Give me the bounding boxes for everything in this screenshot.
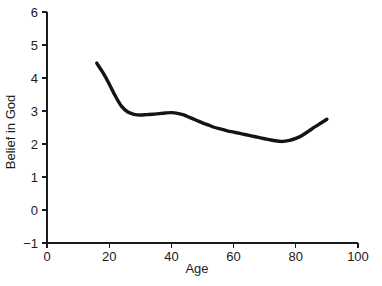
y-axis-tick-label: −1 — [23, 236, 38, 251]
y-axis-title: Belief in God — [3, 95, 18, 169]
y-axis-tick-label: 3 — [31, 104, 38, 119]
x-axis-tick-label: 40 — [164, 249, 178, 264]
x-axis-tick-label: 80 — [289, 249, 303, 264]
y-axis-tick-label: 6 — [31, 5, 38, 20]
y-axis-tick-label: 0 — [31, 203, 38, 218]
y-axis-tick-label: 4 — [31, 71, 38, 86]
x-axis-tick-label: 100 — [347, 249, 369, 264]
belief-in-god-by-age-chart: −10123456 020406080100 Age Belief in God — [0, 0, 382, 286]
y-axis-tick-label: 2 — [31, 137, 38, 152]
x-axis-tick-label: 0 — [43, 249, 50, 264]
y-axis-tick-label: 5 — [31, 38, 38, 53]
x-axis-tick-label: 60 — [226, 249, 240, 264]
y-axis-tick-label: 1 — [31, 170, 38, 185]
x-axis-tick-label: 20 — [102, 249, 116, 264]
x-axis-title: Age — [185, 261, 208, 276]
